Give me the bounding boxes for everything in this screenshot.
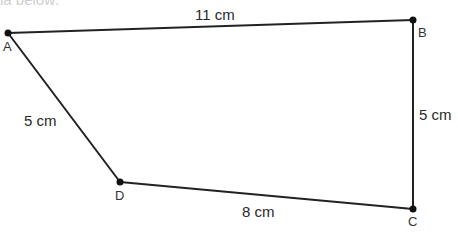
vertex-label-a: A [3,40,12,53]
vertex-label-c: C [408,215,417,228]
vertex-b-dot [410,17,417,24]
side-label-cd: 8 cm [242,204,275,219]
vertex-label-d: D [115,189,124,202]
quadrilateral-diagram: ia below: A B C D 11 cm 5 cm 8 cm 5 cm [0,0,458,233]
shape-svg [0,0,458,233]
side-label-bc: 5 cm [419,107,452,122]
vertex-a-dot [5,30,12,37]
side-da [8,33,120,182]
side-label-da: 5 cm [24,113,57,128]
vertex-d-dot [117,179,124,186]
vertex-label-b: B [418,26,427,39]
vertex-c-dot [410,206,417,213]
side-label-ab: 11 cm [195,7,235,22]
